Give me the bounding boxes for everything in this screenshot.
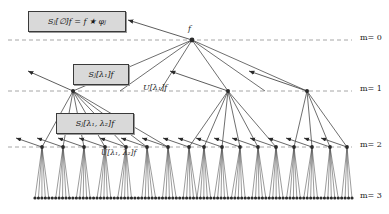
root-node-label: f	[188, 24, 191, 33]
scattering-tree-figure: f SJ[∅]f = f ★ φJ SJ[λ₁]f SJ[λ₁, λ₂]f U[…	[0, 0, 389, 214]
tree-svg	[0, 0, 389, 214]
m-label-3: m= 3	[360, 191, 382, 200]
label-u-lambda1-lambda2: U[λ₁, λ₂]f	[101, 148, 136, 157]
box-sj-lambda1: SJ[λ₁]f	[73, 64, 129, 85]
box-sj-lambda1-lambda2: SJ[λ₁, λ₂]f	[56, 113, 134, 134]
m-label-2: m= 2	[360, 140, 382, 149]
m-label-1: m= 1	[360, 84, 382, 93]
box-sj-empty: SJ[∅]f = f ★ φJ	[28, 11, 126, 32]
m-label-0: m= 0	[360, 33, 382, 42]
label-u-lambda1: U[λ₁]f	[143, 83, 167, 92]
